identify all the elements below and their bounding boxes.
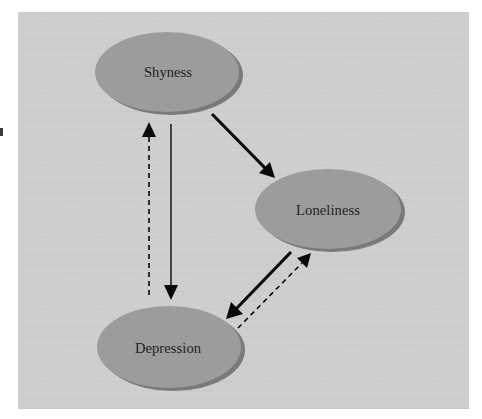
node-label-loneliness: Loneliness <box>296 202 360 219</box>
arrow-depression-to-shyness <box>142 122 156 295</box>
node-label-shyness: Shyness <box>144 64 192 81</box>
arrowhead-diagonal-icon <box>297 253 311 268</box>
arrow-depression-to-loneliness <box>238 253 311 328</box>
arrow-shyness-to-depression <box>164 124 178 300</box>
arrowhead-down-icon <box>164 285 178 300</box>
arrow-loneliness-to-depression <box>226 252 291 319</box>
diagram-canvas <box>0 0 482 419</box>
node-label-depression: Depression <box>135 340 201 357</box>
arrowhead-up-icon <box>142 122 156 137</box>
arrow-shyness-to-loneliness <box>212 114 275 178</box>
